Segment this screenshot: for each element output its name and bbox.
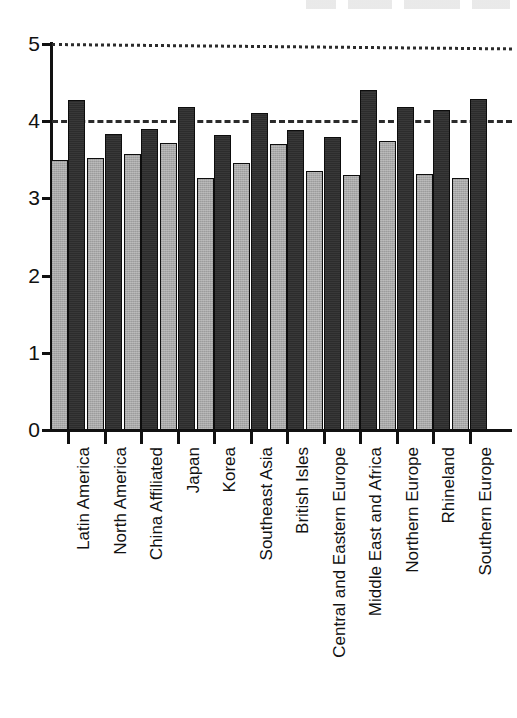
category-axis-tick-mark	[140, 431, 143, 444]
bar-dark-series-6	[287, 130, 304, 430]
bar-light-series-2	[124, 154, 141, 430]
bar-dark-series-10	[433, 110, 450, 430]
category-axis-tick-mark	[213, 431, 216, 444]
bar-dark-series-7	[324, 137, 341, 430]
bar-light-series-4	[197, 178, 214, 430]
bar-light-series-10	[416, 174, 433, 430]
category-axis-tick-mark	[250, 431, 253, 444]
bar-dark-series-9	[397, 107, 414, 430]
category-label-11: Southern Europe	[477, 447, 494, 576]
category-label-10: Rhineland	[440, 447, 457, 524]
category-axis-tick-mark	[323, 431, 326, 444]
bar-light-series-0	[51, 160, 68, 430]
grouped-bar-chart: 012345 Latin AmericaNorth AmericaChina A…	[0, 0, 517, 718]
category-label-4: Korea	[221, 447, 238, 492]
value-axis-tick-label: 4	[10, 110, 40, 131]
bar-light-series-3	[160, 143, 177, 430]
value-axis-tick-label: 2	[10, 265, 40, 286]
category-axis-tick-mark	[67, 431, 70, 444]
category-axis-tick-mark	[286, 431, 289, 444]
value-axis-tick-label: 0	[10, 419, 40, 440]
value-axis-tick-label: 5	[10, 33, 40, 54]
bar-light-series-11	[452, 178, 469, 430]
bar-light-series-8	[343, 175, 360, 430]
category-axis-tick-mark	[177, 431, 180, 444]
category-label-0: Latin America	[75, 447, 92, 550]
category-label-1: North America	[112, 447, 129, 555]
bar-dark-series-5	[251, 113, 268, 430]
category-axis-tick-mark	[432, 431, 435, 444]
category-axis-tick-mark	[469, 431, 472, 444]
bar-dark-series-3	[178, 107, 195, 430]
category-label-8: Middle East and Africa	[367, 447, 384, 616]
bar-light-series-6	[270, 144, 287, 430]
bar-dark-series-2	[141, 129, 158, 430]
bar-dark-series-11	[470, 99, 487, 430]
bar-dark-series-0	[68, 100, 85, 430]
bar-dark-series-8	[360, 90, 377, 430]
bar-dark-series-4	[214, 135, 231, 430]
bar-light-series-9	[379, 141, 396, 431]
category-axis-tick-mark	[104, 431, 107, 444]
category-axis-tick-mark	[359, 431, 362, 444]
category-label-2: China Affiliated	[148, 447, 165, 560]
bar-light-series-5	[233, 163, 250, 430]
category-label-3: Japan	[185, 447, 202, 493]
bar-light-series-1	[87, 158, 104, 430]
category-axis-tick-mark	[396, 431, 399, 444]
bar-dark-series-1	[105, 134, 122, 430]
value-axis-tick-label: 3	[10, 187, 40, 208]
bars-layer	[50, 44, 512, 430]
value-axis-tick-label: 1	[10, 342, 40, 363]
category-label-9: Northern Europe	[404, 447, 421, 573]
category-label-6: British Isles	[294, 447, 311, 534]
bar-light-series-7	[306, 171, 323, 430]
category-label-7: Central and Eastern Europe	[331, 447, 348, 658]
category-label-5: Southeast Asia	[258, 447, 275, 560]
